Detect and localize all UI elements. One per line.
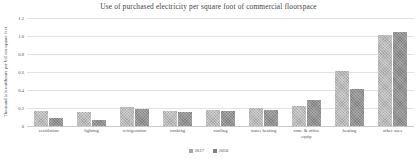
x-axis-tick-label-line: com. & office [293,128,319,133]
bar-2050-cooling[interactable] [221,111,235,126]
bar-2017-cooling[interactable] [206,110,220,126]
plot-area [27,18,414,126]
bar-2050-other-uses[interactable] [393,32,407,126]
chart-container: Use of purchased electricity per square … [0,0,417,162]
x-axis-tick-label-line: other uses [383,128,402,133]
x-axis-tick-label-line: cooking [170,128,185,133]
bar-group [285,18,328,126]
legend-label: 2017 [195,148,204,153]
x-axis-tick-labels: ventilationlightingrefrigerationcookingc… [27,128,414,148]
bar-2050-refrigeration[interactable] [135,109,149,126]
bar-2017-ventilation[interactable] [34,111,48,126]
bar-2050-com-office-equip[interactable] [307,100,321,126]
bar-2017-water-heating[interactable] [249,108,263,126]
bar-2017-lighting[interactable] [77,112,91,126]
bar-group [242,18,285,126]
legend-swatch-icon [213,149,217,153]
bar-2050-lighting[interactable] [92,120,106,126]
bar-2050-water-heating[interactable] [264,110,278,126]
y-axis-tick-label: 0.2 [8,106,24,111]
bar-group [199,18,242,126]
bar-2050-heating[interactable] [350,89,364,126]
legend-item-2017[interactable]: 2017 [189,148,204,153]
y-axis-tick-label: 0.6 [8,70,24,75]
x-axis-tick-label-line: water heating [251,128,277,133]
bar-group [27,18,70,126]
chart-title: Use of purchased electricity per square … [0,2,417,12]
y-axis-tick-label: 0.8 [8,52,24,57]
bar-2017-com-office-equip[interactable] [292,106,306,126]
chart-legend: 20172050 [0,148,417,153]
x-axis-tick-label-line: heating [343,128,357,133]
bar-2017-refrigeration[interactable] [120,107,134,126]
bar-2017-cooking[interactable] [163,111,177,126]
legend-swatch-icon [189,149,193,153]
bar-2050-cooking[interactable] [178,112,192,126]
x-axis-tick-label-line: lighting [84,128,99,133]
bar-group [113,18,156,126]
y-axis-tick-label: 1.0 [8,34,24,39]
x-axis-tick-label-line: equip [278,134,336,140]
gridline [27,126,414,127]
bar-series-group [27,18,414,126]
y-axis-tick-label: 1.2 [8,16,24,21]
legend-label: 2050 [219,148,228,153]
bar-2017-other-uses[interactable] [378,35,392,126]
bar-group [70,18,113,126]
y-axis-tick-label: 0.4 [8,88,24,93]
bar-2017-heating[interactable] [335,71,349,126]
bar-group [328,18,371,126]
x-axis-tick-label-line: refrigeration [123,128,147,133]
legend-item-2050[interactable]: 2050 [213,148,228,153]
bar-group [156,18,199,126]
x-axis-tick-label-line: ventilation [38,128,58,133]
bar-2050-ventilation[interactable] [49,118,63,126]
x-axis-tick-label-line: cooling [213,128,227,133]
bar-group [371,18,414,126]
x-axis-tick-label: other uses [364,128,417,134]
